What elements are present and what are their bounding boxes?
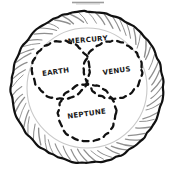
- ring-hatch-stroke: [91, 151, 104, 159]
- venn-label-neptune: NEPTUNE: [67, 107, 107, 120]
- venn-set-circles: [32, 40, 143, 141]
- hand-drawn-venn-diagram: EARTHVENUSNEPTUNEMERCURY: [0, 0, 176, 173]
- ring-hatch-stroke: [55, 20, 71, 24]
- venn-label-mercury: MERCURY: [67, 34, 108, 46]
- top-edge-artifact: [72, 3, 104, 5]
- ring-hatch-stroke: [140, 119, 155, 121]
- ring-hatch-stroke: [40, 28, 57, 30]
- ring-hatch-stroke: [95, 12, 104, 24]
- ring-hatch-stroke: [29, 40, 42, 41]
- ring-hatch-stroke: [19, 103, 26, 119]
- ring-hatch-stroke: [14, 62, 27, 70]
- ring-hatch-stroke: [47, 23, 59, 28]
- ring-hatch-stroke: [144, 40, 146, 57]
- ring-hatch-stroke: [111, 146, 126, 150]
- ring-hatch-stroke: [45, 135, 47, 151]
- figure-canvas: EARTHVENUSNEPTUNEMERCURY: [0, 0, 176, 173]
- venn-label-earth: EARTH: [42, 66, 70, 78]
- ring-hatch-stroke: [149, 54, 155, 69]
- ring-hatch-stroke: [134, 28, 136, 44]
- ring-hatch-stroke: [39, 128, 41, 145]
- venn-label-venus: VENUS: [102, 65, 131, 77]
- ring-hatch-stroke: [33, 124, 35, 141]
- ring-hatch-stroke: [12, 75, 23, 87]
- ring-hatch-stroke: [71, 149, 79, 162]
- ring-hatch-stroke: [98, 151, 112, 158]
- hatched-outer-ring-hatching: [12, 11, 162, 162]
- ring-hatch-stroke: [127, 24, 131, 39]
- ring-hatch-stroke: [13, 70, 25, 79]
- ring-hatch-stroke: [128, 133, 145, 135]
- ring-hatch-stroke: [28, 117, 29, 134]
- ring-hatch-stroke: [12, 86, 21, 95]
- ring-hatch-stroke: [137, 34, 140, 49]
- ring-hatch-stroke: [125, 139, 139, 140]
- ring-hatch-stroke: [146, 104, 160, 110]
- ring-hatch-stroke: [136, 127, 151, 128]
- ring-hatch-stroke: [34, 33, 52, 34]
- venn-labels: EARTHVENUSNEPTUNEMERCURY: [42, 34, 132, 120]
- ring-hatch-stroke: [117, 143, 134, 147]
